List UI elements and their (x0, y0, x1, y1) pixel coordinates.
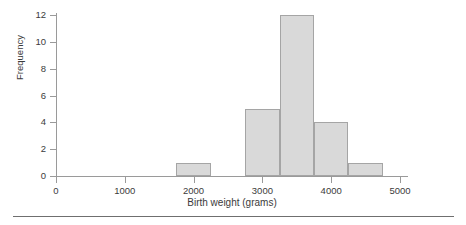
bottom-divider (13, 216, 454, 217)
y-tick-label-8: 8 (26, 64, 46, 74)
x-axis-title: Birth weight (grams) (56, 197, 408, 208)
x-tick-label-3000: 3000 (232, 185, 292, 196)
x-tick-2000 (194, 177, 195, 183)
x-axis-line (56, 176, 408, 177)
x-tick-label-1000: 1000 (95, 185, 155, 196)
x-tick-5000 (400, 177, 401, 183)
histogram-bar (176, 163, 210, 176)
x-tick-label-2000: 2000 (164, 185, 224, 196)
x-tick-label-0: 0 (26, 185, 86, 196)
histogram-bar (348, 163, 382, 176)
y-tick-label-0: 0 (26, 171, 46, 181)
plot-area (56, 15, 407, 176)
y-axis-title: Frequency (14, 13, 25, 103)
y-tick-label-2: 2 (26, 144, 46, 154)
x-tick-0 (56, 177, 57, 183)
histogram-bar (245, 109, 279, 176)
y-tick-label-6: 6 (26, 91, 46, 101)
x-tick-4000 (331, 177, 332, 183)
histogram-bar (314, 122, 348, 176)
y-tick-label-10: 10 (26, 37, 46, 47)
x-tick-1000 (125, 177, 126, 183)
histogram-bar (280, 15, 314, 176)
y-tick-label-4: 4 (26, 117, 46, 127)
x-tick-label-5000: 5000 (370, 185, 430, 196)
histogram-figure: Frequency 12 10 8 6 4 2 0 0 1000 2000 30… (0, 0, 466, 225)
x-tick-3000 (262, 177, 263, 183)
y-tick-label-12: 12 (26, 10, 46, 20)
x-tick-label-4000: 4000 (301, 185, 361, 196)
